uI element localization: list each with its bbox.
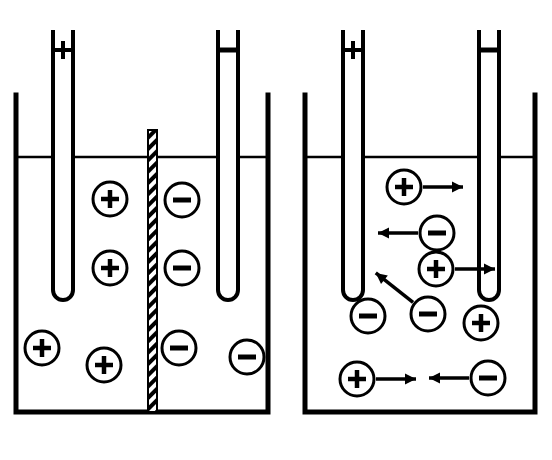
ion-negative	[165, 251, 199, 285]
ion-positive	[93, 251, 127, 285]
electrode-cathode[interactable]	[479, 30, 499, 300]
ion-barrier-hatched-strip	[148, 130, 157, 412]
electrode-rod	[53, 30, 73, 300]
ion-positive	[93, 182, 127, 216]
electrode-cathode[interactable]	[218, 30, 238, 300]
electrode-rod	[218, 30, 238, 300]
ion-barrier	[148, 130, 157, 412]
electrolysis-diagram-svg	[0, 0, 552, 460]
ion-positive	[464, 306, 498, 340]
figure-background	[0, 0, 552, 460]
electrode-anode[interactable]	[53, 30, 73, 300]
electrode-rod	[479, 30, 499, 300]
ion-negative	[165, 183, 199, 217]
ion-positive	[25, 331, 59, 365]
electrode-rod	[343, 30, 363, 300]
electrode-anode[interactable]	[343, 30, 363, 300]
ion-negative	[162, 331, 196, 365]
ion-negative	[230, 340, 264, 374]
ion-negative	[351, 299, 385, 333]
electrolysis-figure	[0, 0, 552, 460]
ion-positive	[87, 348, 121, 382]
